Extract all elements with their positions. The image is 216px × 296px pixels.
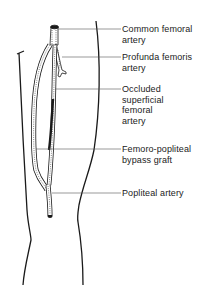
label-profunda-femoris-artery: Profunda femoris artery [122,52,192,73]
bypass-graft [34,45,50,190]
label-popliteal-artery: Popliteal artery [122,188,184,199]
leg-outline-right [78,21,100,285]
common-femoral-artery [50,25,59,45]
leg-outline-left [17,51,31,285]
popliteal-artery [48,185,53,218]
label-occluded-superficial-femoral-artery: Occluded superficial femoral artery [122,84,164,126]
label-common-femoral-artery: Common femoral artery [122,24,192,45]
occluded-superficial-femoral-artery [49,45,55,185]
label-femoro-popliteal-bypass-graft: Femoro-popliteal bypass graft [122,144,191,165]
